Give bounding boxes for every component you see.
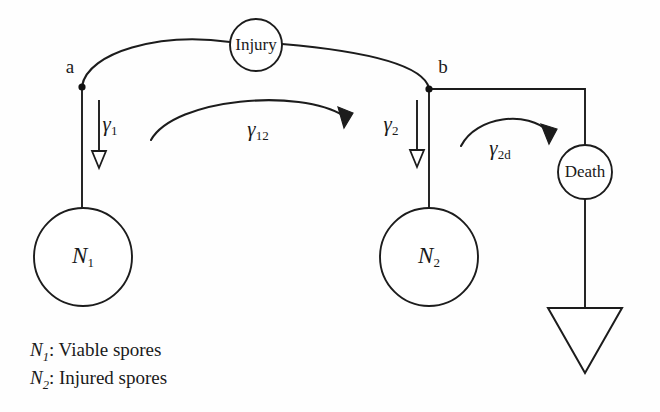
junction-b-label: b [438, 56, 448, 77]
gamma2-label: γ2 [384, 112, 399, 138]
gamma2d-label: γ2d [489, 136, 511, 162]
n1-label-subscript: 1 [87, 255, 94, 270]
caption-line-2-text: : Injured spores [49, 367, 167, 388]
gamma2d-arc [461, 119, 549, 146]
gamma2-arrowhead-icon [410, 150, 424, 167]
sink-triangle-icon [548, 308, 622, 373]
caption-line-1-text: : Viable spores [49, 339, 162, 360]
gamma1-subscript: 1 [111, 123, 118, 138]
junction-a-label: a [66, 56, 75, 77]
caption-line-2: N2: Injured spores [29, 367, 167, 392]
junction-a-dot-icon [78, 83, 85, 90]
gamma2-subscript: 2 [392, 123, 399, 138]
junction-a[interactable]: a [66, 56, 86, 90]
gamma12-label: γ12 [247, 117, 268, 143]
junction-b[interactable]: b [425, 56, 447, 92]
line-b-to-death [429, 89, 585, 145]
junction-b-dot-icon [425, 85, 432, 92]
node-injury[interactable]: Injury [230, 19, 282, 71]
n1-label-symbol: N [71, 243, 89, 268]
gamma12-arrowhead-icon [338, 107, 353, 128]
node-death[interactable]: Death [558, 145, 612, 199]
gamma2d-arrowhead-icon [541, 124, 557, 144]
gamma1-label: γ1 [103, 112, 118, 138]
gamma2-arrow-group [410, 100, 424, 167]
gamma2d-arrow-group [461, 119, 557, 146]
arc-a-to-injury [82, 39, 230, 86]
node-n1[interactable]: N1 [34, 208, 132, 306]
gamma2d-subscript: 2d [498, 147, 512, 162]
node-n2[interactable]: N2 [380, 208, 478, 306]
death-label: Death [565, 162, 606, 181]
gamma1-arrowhead-icon [92, 151, 106, 168]
n2-label-subscript: 2 [433, 255, 440, 270]
arc-injury-to-b [282, 44, 429, 88]
caption-line-1: N1: Viable spores [29, 339, 161, 364]
injury-label: Injury [235, 35, 277, 54]
gamma12-subscript: 12 [256, 128, 269, 143]
diagram-canvas: Injury Death N1 N2 a [0, 0, 660, 412]
figure-root: Injury Death N1 N2 a [0, 0, 660, 412]
n2-label-symbol: N [417, 243, 435, 268]
